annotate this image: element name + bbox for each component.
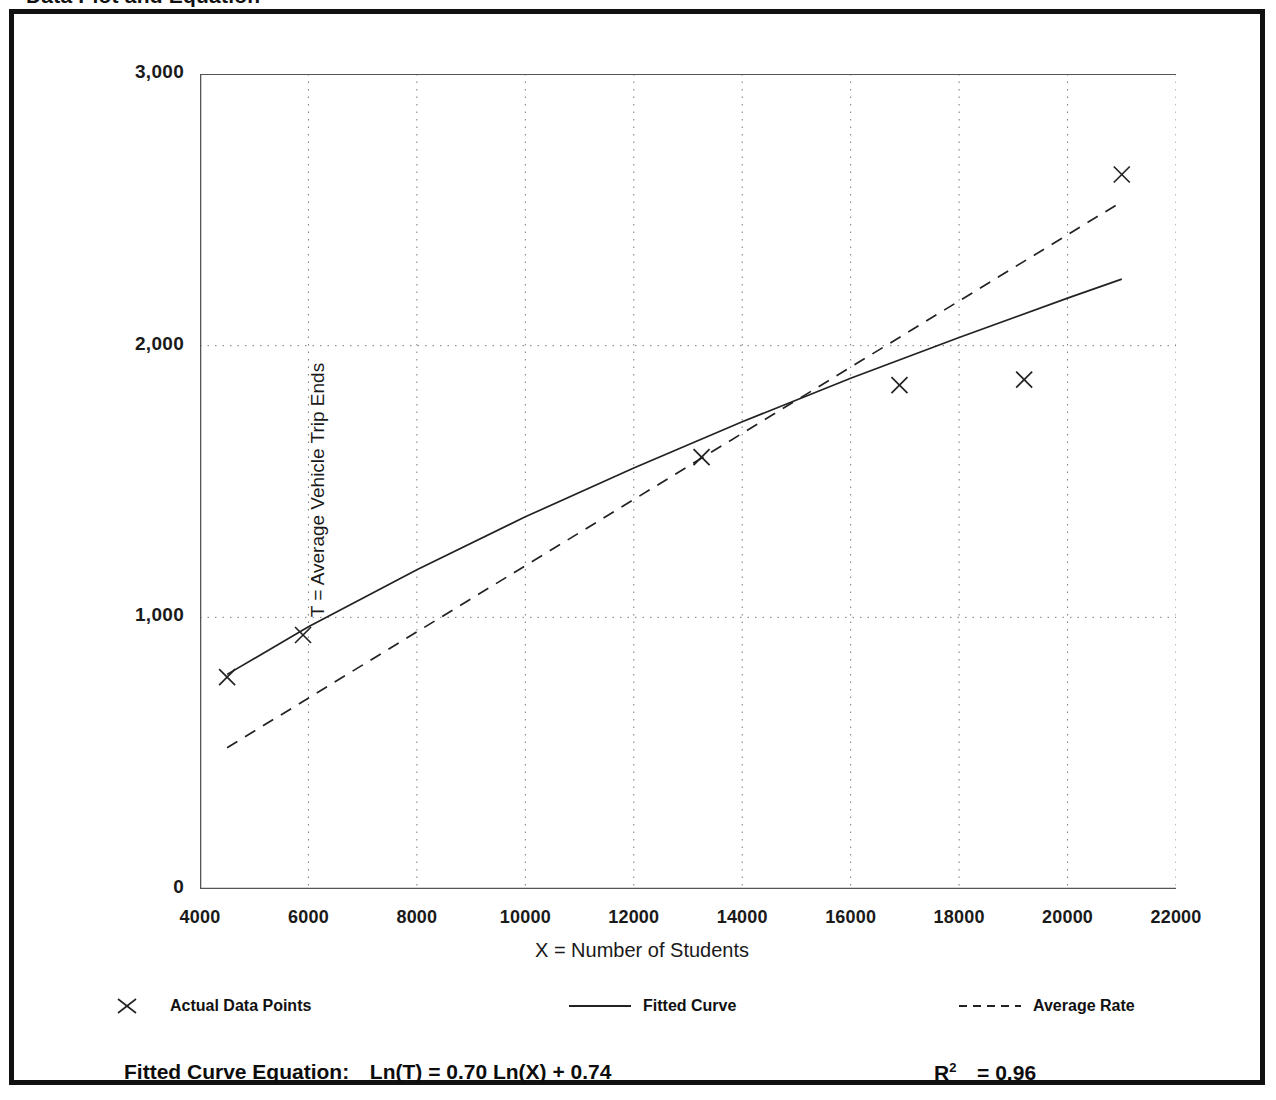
y-tick-label: 0 [74, 876, 184, 898]
data-point-marker [694, 449, 710, 465]
legend-item-fitted-curve[interactable]: Fitted Curve [569, 997, 736, 1015]
equation-label: Fitted Curve Equation: [124, 1060, 349, 1083]
data-point-marker [1114, 167, 1130, 183]
legend-label: Actual Data Points [170, 997, 311, 1015]
y-tick-label: 3,000 [74, 61, 184, 83]
data-point-markers [219, 167, 1130, 686]
gridlines-group [200, 74, 1176, 889]
average-rate-line [227, 202, 1122, 748]
x-tick-label: 6000 [263, 907, 353, 928]
x-marker-icon [96, 997, 158, 1015]
chart-plot-area: 01,0002,0003,000 40006000800010000120001… [200, 74, 1176, 889]
figure-frame: 01,0002,0003,000 40006000800010000120001… [9, 9, 1265, 1085]
x-tick-label: 8000 [372, 907, 462, 928]
chart-canvas [200, 74, 1176, 889]
x-axis-title: X = Number of Students [14, 939, 1270, 962]
r-value: = 0.96 [977, 1061, 1036, 1084]
x-tick-label: 22000 [1131, 907, 1221, 928]
data-point-marker [1016, 372, 1032, 388]
x-tick-label: 12000 [589, 907, 679, 928]
chart-legend: Actual Data PointsFitted CurveAverage Ra… [14, 997, 1270, 1031]
dashed-line-icon [959, 997, 1021, 1015]
legend-label: Average Rate [1033, 997, 1135, 1015]
fitted-curve-line [227, 279, 1122, 674]
r-squared-value: R2 = 0.96 [934, 1060, 1036, 1085]
x-tick-label: 10000 [480, 907, 570, 928]
page-title: Data Plot and Equation [26, 0, 260, 8]
x-tick-label: 18000 [914, 907, 1004, 928]
legend-item-average-rate[interactable]: Average Rate [959, 997, 1135, 1015]
r-label: R [934, 1061, 949, 1084]
equation-row: Fitted Curve Equation: Ln(T) = 0.70 Ln(X… [14, 1060, 1270, 1100]
x-tick-label: 16000 [806, 907, 896, 928]
equation-value: Ln(T) = 0.70 Ln(X) + 0.74 [370, 1060, 612, 1083]
x-tick-label: 14000 [697, 907, 787, 928]
y-axis-title: T = Average Vehicle Trip Ends [307, 280, 329, 700]
data-point-marker [219, 669, 235, 685]
solid-line-icon [569, 997, 631, 1015]
x-tick-label: 20000 [1023, 907, 1113, 928]
y-tick-label: 1,000 [74, 604, 184, 626]
x-tick-label: 4000 [155, 907, 245, 928]
legend-label: Fitted Curve [643, 997, 736, 1015]
legend-item-actual-data-points[interactable]: Actual Data Points [96, 997, 311, 1015]
y-tick-label: 2,000 [74, 333, 184, 355]
axes-group [200, 74, 1176, 889]
fitted-curve-equation: Fitted Curve Equation: Ln(T) = 0.70 Ln(X… [124, 1060, 611, 1084]
axis-ticks-group [200, 74, 1176, 889]
data-point-marker [891, 377, 907, 393]
r-exponent: 2 [949, 1060, 956, 1075]
